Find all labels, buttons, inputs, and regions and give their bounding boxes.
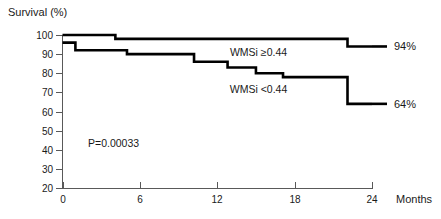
y-axis: 2030405060708090100 — [36, 30, 62, 194]
y-tick-label: 60 — [42, 107, 54, 118]
y-tick-label: 50 — [42, 126, 54, 137]
x-axis-title: Months — [396, 193, 433, 205]
x-tick-label: 18 — [289, 194, 301, 205]
survival-chart: Survival (%) Months 2030405060708090100 … — [0, 0, 441, 219]
series-label: WMSi <0.44 — [230, 83, 288, 95]
chart-canvas: Survival (%) Months 2030405060708090100 … — [0, 0, 441, 219]
y-tick-label: 90 — [42, 49, 54, 60]
y-tick-label: 40 — [42, 145, 54, 156]
endpoint-value-label: 64% — [394, 98, 416, 110]
endpoint-value-label: 94% — [394, 40, 416, 52]
y-tick-label: 30 — [42, 164, 54, 175]
survival-curve — [63, 35, 373, 46]
x-tick-label: 24 — [366, 194, 378, 205]
y-tick-label: 80 — [42, 68, 54, 79]
x-tick-label: 12 — [211, 194, 223, 205]
survival-curves: WMSi ≥0.4494%WMSi <0.4464% — [63, 35, 417, 110]
survival-curve — [63, 43, 373, 104]
p-value-annotation: P=0.00033 — [88, 137, 139, 149]
y-tick-label: 70 — [42, 87, 54, 98]
series-label: WMSi ≥0.44 — [230, 46, 287, 58]
x-tick-label: 0 — [60, 194, 66, 205]
y-axis-title: Survival (%) — [8, 6, 67, 18]
y-tick-label: 100 — [36, 30, 53, 41]
x-axis: 06121824 — [60, 182, 378, 205]
y-tick-label: 20 — [42, 183, 54, 194]
x-tick-label: 6 — [137, 194, 143, 205]
